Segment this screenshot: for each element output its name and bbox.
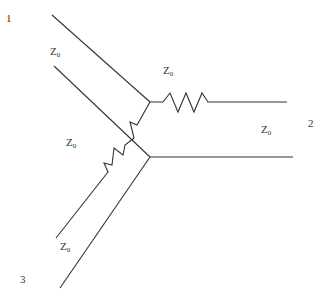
power-divider-diagram: 1 2 3 Z0 Z0 Z0 Z0 Z0 bbox=[0, 0, 323, 302]
z0-label-port2: Z0 bbox=[261, 123, 272, 137]
z0-label-top-resistor: Z0 bbox=[163, 64, 174, 78]
z0-label-port1: Z0 bbox=[50, 45, 61, 59]
resistor-middle-upper bbox=[130, 102, 150, 138]
port-2-label: 2 bbox=[308, 117, 314, 129]
z0-label-middle-resistor: Z0 bbox=[66, 136, 77, 150]
port1-upper-conductor bbox=[52, 15, 150, 102]
z0-label-port3: Z0 bbox=[60, 240, 71, 254]
port-3-label: 3 bbox=[20, 273, 26, 285]
resistor-port3 bbox=[56, 138, 134, 238]
resistor-port2 bbox=[150, 93, 287, 112]
port-1-label: 1 bbox=[6, 12, 12, 24]
